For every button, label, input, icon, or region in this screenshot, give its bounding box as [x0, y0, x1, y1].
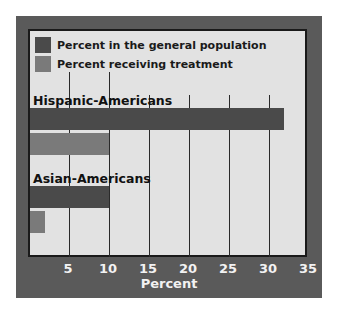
- bar-asian-receiving-treatment: [30, 211, 45, 233]
- plot-area: Percent in the general population Percen…: [28, 29, 307, 257]
- legend-swatch-dark: [35, 37, 51, 53]
- x-tick-35: 35: [299, 261, 317, 276]
- bar-hispanic-receiving-treatment: [30, 133, 109, 155]
- x-tick-5: 5: [63, 261, 72, 276]
- category-label-hispanic: Hispanic-Americans: [33, 93, 172, 108]
- x-tick-10: 10: [99, 261, 117, 276]
- x-tick-15: 15: [139, 261, 157, 276]
- legend-item-general-population: Percent in the general population: [35, 36, 266, 54]
- x-tick-30: 30: [259, 261, 277, 276]
- category-label-asian: Asian-Americans: [33, 171, 151, 186]
- chart-frame: Percent in the general population Percen…: [16, 16, 322, 298]
- legend-label: Percent receiving treatment: [57, 58, 233, 71]
- bar-hispanic-general-population: [30, 108, 284, 130]
- legend-label: Percent in the general population: [57, 39, 266, 52]
- x-tick-25: 25: [219, 261, 237, 276]
- x-tick-20: 20: [179, 261, 197, 276]
- legend-item-receiving-treatment: Percent receiving treatment: [35, 55, 233, 73]
- x-axis-label: Percent: [16, 276, 322, 291]
- legend-swatch-light: [35, 56, 51, 72]
- bar-asian-general-population: [30, 186, 109, 208]
